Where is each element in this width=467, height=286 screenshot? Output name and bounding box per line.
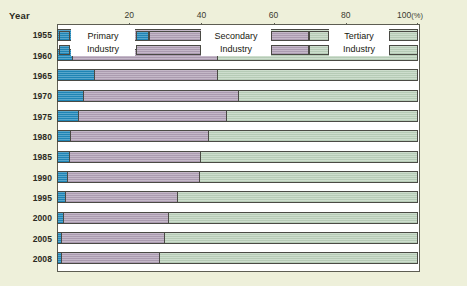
legend-swatch-secondary <box>149 31 201 41</box>
bar-row <box>57 90 418 102</box>
bar-row <box>57 191 418 203</box>
year-label-column: 1955196019651970197519801985199019952000… <box>0 25 52 269</box>
year-label: 1975 <box>4 112 52 122</box>
legend-swatch-primary-2 <box>59 31 70 41</box>
bar-segment-primary <box>57 90 84 102</box>
legend-tertiary-line1: Tertiary <box>344 31 374 41</box>
legend-swatch-primary-3 <box>59 45 70 55</box>
bar-segment-secondary <box>66 191 178 203</box>
bar-segment-tertiary <box>209 130 418 142</box>
year-label: 1955 <box>4 30 52 40</box>
year-label: 1995 <box>4 193 52 203</box>
x-tick-label-40: 40 <box>197 10 206 20</box>
legend-label-primary: Primary Industry <box>87 30 119 55</box>
bar-row <box>57 130 418 142</box>
legend-swatch-tertiary-4 <box>389 45 418 55</box>
year-label: 1960 <box>4 51 52 61</box>
bar-segment-primary <box>57 110 79 122</box>
legend-item-tertiary: Tertiary Industry <box>329 29 389 56</box>
x-tick-label-60: 60 <box>269 10 278 20</box>
bar-segment-tertiary <box>169 212 418 224</box>
stacked-bar-chart: Year 20406080100(%) 19551960196519701975… <box>0 0 467 286</box>
legend-swatch-secondary-4 <box>271 45 309 55</box>
legend-label-tertiary: Tertiary Industry <box>343 30 375 55</box>
year-label: 1985 <box>4 152 52 162</box>
bar-segment-secondary <box>64 212 169 224</box>
bar-row <box>57 69 418 81</box>
bar-segment-secondary <box>68 171 200 183</box>
legend-item-secondary: Secondary Industry <box>201 29 271 56</box>
bar-rows <box>57 25 418 269</box>
legend-item-primary: Primary Industry <box>71 29 135 56</box>
legend-primary-line2: Industry <box>87 44 119 54</box>
legend-swatch-tertiary-3 <box>389 31 418 41</box>
bar-segment-primary <box>57 191 66 203</box>
bar-row <box>57 232 418 244</box>
bar-segment-secondary <box>62 232 165 244</box>
axis-title-year: Year <box>9 10 30 21</box>
legend-swatch-primary <box>136 31 149 41</box>
legend-secondary-line1: Secondary <box>214 31 257 41</box>
year-label: 2005 <box>4 234 52 244</box>
legend-secondary-line2: Industry <box>220 44 252 54</box>
bar-row <box>57 110 418 122</box>
x-axis: 20406080100(%) <box>57 10 418 24</box>
bar-segment-secondary <box>70 151 202 163</box>
legend-primary-line1: Primary <box>87 31 118 41</box>
bar-row <box>57 252 418 264</box>
bar-segment-secondary <box>71 130 208 142</box>
bar-segment-tertiary <box>201 151 418 163</box>
legend-swatch-secondary-3 <box>271 31 309 41</box>
bar-segment-primary <box>57 171 68 183</box>
bar-row <box>57 212 418 224</box>
bar-row <box>57 171 418 183</box>
year-label: 1970 <box>4 91 52 101</box>
year-label: 2008 <box>4 254 52 264</box>
year-label: 1980 <box>4 132 52 142</box>
bar-segment-tertiary <box>227 110 418 122</box>
bar-segment-primary <box>57 151 70 163</box>
bar-segment-secondary <box>79 110 227 122</box>
legend-label-secondary: Secondary Industry <box>214 30 257 55</box>
bar-segment-tertiary <box>165 232 418 244</box>
x-tick-label-100: 100(%) <box>397 10 423 20</box>
bar-segment-tertiary <box>178 191 418 203</box>
legend-tertiary-line2: Industry <box>343 44 375 54</box>
bar-segment-tertiary <box>200 171 418 183</box>
bar-row <box>57 151 418 163</box>
bar-segment-primary <box>57 69 95 81</box>
year-label: 1965 <box>4 71 52 81</box>
year-label: 2000 <box>4 213 52 223</box>
bar-segment-primary <box>57 212 64 224</box>
legend-swatch-secondary-2 <box>136 45 201 55</box>
legend-swatch-tertiary <box>309 31 329 41</box>
x-tick-label-20: 20 <box>124 10 133 20</box>
x-tick-label-80: 80 <box>341 10 350 20</box>
bar-segment-primary <box>57 130 71 142</box>
bar-segment-secondary <box>84 90 239 102</box>
bar-segment-secondary <box>62 252 159 264</box>
bar-segment-tertiary <box>239 90 418 102</box>
legend-swatch-tertiary-2 <box>309 45 329 55</box>
bar-segment-tertiary <box>218 69 418 81</box>
bar-segment-secondary <box>95 69 218 81</box>
year-label: 1990 <box>4 173 52 183</box>
bar-segment-tertiary <box>160 252 418 264</box>
